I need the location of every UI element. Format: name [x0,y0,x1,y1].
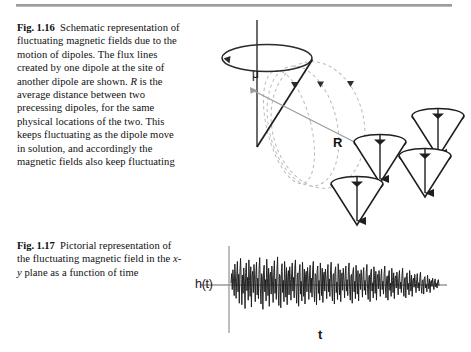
dipole-cone-3 [399,148,451,197]
distance-label-R: R [333,135,342,150]
dipole-cone-4 [331,176,383,225]
figure-caption-1-16: Fig. 1.16 Schematic representation of fl… [17,21,183,168]
figure-label-1-17: Fig. 1.17 [17,240,55,251]
dipole-cone-1 [354,134,406,183]
flux-loops [254,53,377,197]
magnetic-moment-label: μ [252,67,259,81]
precession-circle [222,45,312,72]
figure-caption-1-17: Fig. 1.17 Pictorial representation of th… [17,239,183,279]
figure-label-1-16: Fig. 1.16 [17,22,55,33]
flux-direction-arrows [291,81,354,88]
wave-y-axis-label: h(t) [195,277,213,291]
figure-page: Fig. 1.16 Schematic representation of fl… [0,0,471,352]
dipole-precession-schematic [200,14,471,230]
wave-x-axis-label: t [318,327,322,342]
fluctuating-field-waveform [188,238,471,352]
figure-caption-text-1-16: Schematic representation of fluctuating … [17,22,180,167]
page-top-divider [16,4,452,7]
wave-trace [231,257,439,309]
